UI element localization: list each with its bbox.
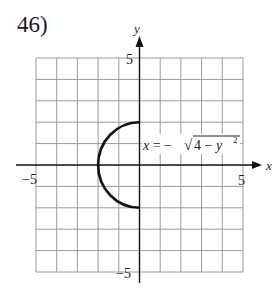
svg-text:4 − y: 4 − y bbox=[194, 138, 223, 153]
tick-label-x-min: −5 bbox=[22, 172, 37, 187]
svg-text:x = −: x = − bbox=[142, 138, 172, 153]
tick-label-y-min: −5 bbox=[116, 266, 131, 281]
tick-label-y-max: 5 bbox=[126, 52, 133, 67]
svg-text:2: 2 bbox=[233, 135, 238, 145]
y-axis-label: y bbox=[132, 21, 140, 36]
graph: y x 5 −5 −5 5 x = − √ 4 − y 2 bbox=[0, 0, 280, 298]
x-axis-arrow-icon bbox=[252, 161, 262, 169]
radical-icon: √ bbox=[184, 137, 193, 153]
axes bbox=[16, 42, 255, 283]
tick-label-x-max: 5 bbox=[238, 173, 245, 188]
x-axis-label: x bbox=[265, 158, 272, 173]
y-axis-arrow-icon bbox=[136, 36, 144, 47]
equation-label: x = − √ 4 − y 2 bbox=[142, 134, 240, 154]
